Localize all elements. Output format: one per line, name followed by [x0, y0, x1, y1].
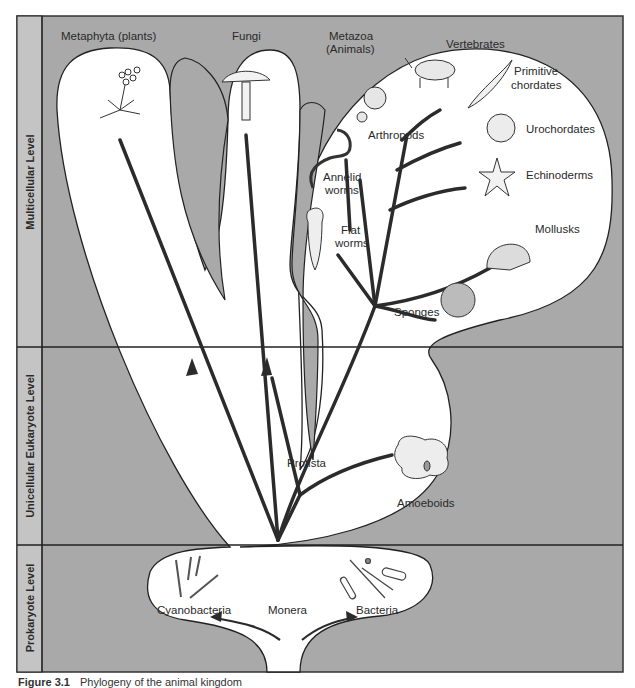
- label-protista: Protista: [287, 457, 327, 469]
- label-flat-worms-1: Flat: [341, 224, 361, 236]
- label-bacteria: Bacteria: [356, 604, 399, 616]
- label-vertebrates: Vertebrates: [446, 38, 505, 50]
- figure-number: Figure 3.1: [18, 676, 70, 688]
- label-monera: Monera: [268, 604, 308, 616]
- figure-caption: Figure 3.1Phylogeny of the animal kingdo…: [18, 676, 242, 688]
- level-label-unicellular: Unicellular Eukaryote Level: [24, 374, 36, 518]
- urochordate-icon: [487, 114, 515, 142]
- label-fungi: Fungi: [232, 30, 261, 42]
- label-metazoa: Metazoa: [329, 30, 374, 42]
- label-animals: (Animals): [326, 43, 375, 55]
- label-arthropods: Arthropods: [368, 129, 425, 141]
- amoeba-icon: [395, 436, 448, 478]
- label-echinoderms: Echinoderms: [526, 169, 593, 181]
- label-primitive-chordates-1: Primitive: [514, 65, 558, 77]
- label-urochordates: Urochordates: [526, 123, 595, 135]
- level-label-multicellular: Multicellular Level: [24, 134, 36, 229]
- figure-caption-text: Phylogeny of the animal kingdom: [80, 676, 242, 688]
- label-amoeboids: Amoeboids: [397, 497, 455, 509]
- label-metaphyta: Metaphyta (plants): [61, 30, 156, 42]
- level-label-prokaryote: Prokaryote Level: [24, 564, 36, 653]
- label-primitive-chordates-2: chordates: [511, 79, 562, 91]
- label-flat-worms-2: worms: [334, 237, 369, 249]
- label-annelid-1: Annelid: [323, 171, 361, 183]
- label-sponges: Sponges: [394, 306, 440, 318]
- label-cyanobacteria: Cyanobacteria: [157, 604, 232, 616]
- label-mollusks: Mollusks: [535, 223, 580, 235]
- sponge-icon: [441, 283, 475, 317]
- label-annelid-2: worms: [324, 184, 359, 196]
